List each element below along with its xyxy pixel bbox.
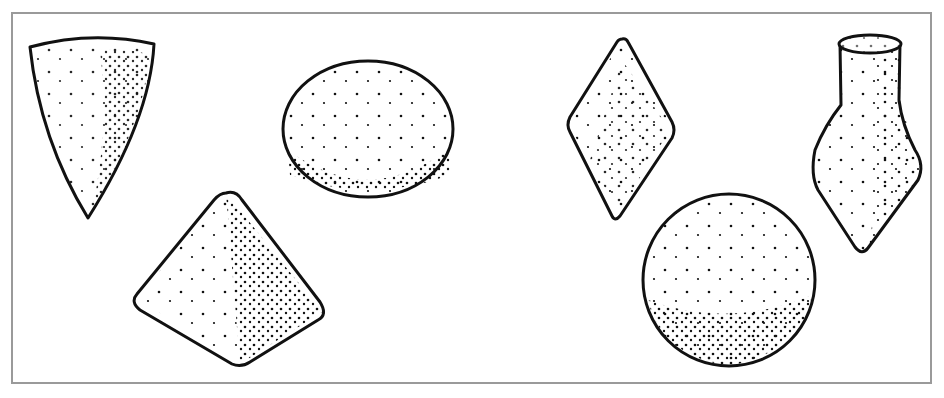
diamond-shape	[568, 39, 674, 220]
oval-shape	[283, 61, 453, 197]
shapes-canvas	[0, 0, 944, 398]
sphere-shape	[643, 194, 815, 366]
cone-shape	[30, 38, 154, 218]
pyramid-shape	[134, 192, 323, 365]
vase-shape	[813, 35, 921, 252]
